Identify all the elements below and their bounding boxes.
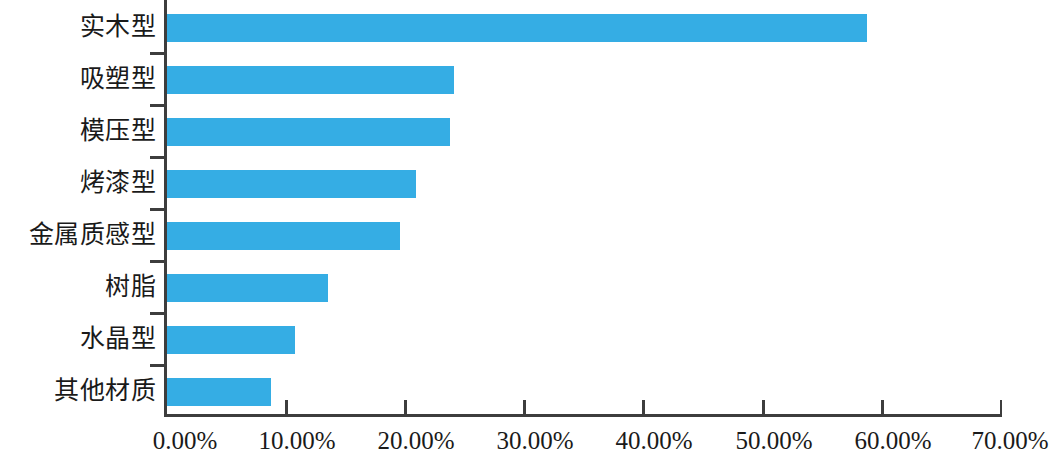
bar-2 — [166, 118, 450, 146]
x-axis-tick-1 — [285, 400, 288, 415]
y-axis-tick-4 — [150, 260, 165, 263]
y-axis-label-text-5: 树脂 — [0, 274, 156, 299]
bar-0 — [166, 14, 867, 42]
x-axis-tick-4 — [642, 400, 645, 415]
y-axis-label-1: 吸塑型 — [0, 52, 156, 104]
x-axis-tick-6 — [881, 400, 884, 415]
plot-area — [166, 0, 1000, 416]
bar-4 — [166, 222, 400, 250]
bar-1 — [166, 66, 454, 94]
y-axis-tick-6 — [150, 364, 165, 367]
x-axis-tick-label-7: 70.00% — [971, 428, 1048, 453]
y-axis-label-6: 水晶型 — [0, 312, 156, 364]
x-axis-tick-label-6: 60.00% — [854, 428, 931, 453]
y-axis-label-2: 模压型 — [0, 104, 156, 156]
x-axis-tick-label-0: 0.00% — [153, 428, 218, 453]
y-axis-label-text-6: 水晶型 — [0, 326, 156, 351]
x-axis-line — [164, 414, 1002, 417]
x-axis-tick-label-3: 30.00% — [496, 428, 573, 453]
bar-5 — [166, 274, 328, 302]
y-axis-label-text-0: 实木型 — [0, 14, 156, 39]
bar-7 — [166, 378, 271, 406]
x-axis-tick-7 — [1000, 400, 1003, 415]
x-axis-tick-label-1: 10.00% — [258, 428, 335, 453]
y-axis-label-4: 金属质感型 — [0, 208, 156, 260]
bar-3 — [166, 170, 416, 198]
y-axis-label-text-4: 金属质感型 — [0, 222, 156, 247]
x-axis-tick-label-2: 20.00% — [377, 428, 454, 453]
y-axis-label-text-3: 烤漆型 — [0, 170, 156, 195]
y-axis-label-7: 其他材质 — [0, 364, 156, 416]
y-axis-label-0: 实木型 — [0, 0, 156, 52]
y-axis-tick-3 — [150, 208, 165, 211]
y-axis-tick-0 — [150, 52, 165, 55]
y-axis-label-text-2: 模压型 — [0, 118, 156, 143]
y-axis-label-5: 树脂 — [0, 260, 156, 312]
x-axis-tick-label-5: 50.00% — [735, 428, 812, 453]
x-axis-tick-2 — [404, 400, 407, 415]
y-axis-tick-2 — [150, 156, 165, 159]
y-axis-category-labels: 实木型 吸塑型 模压型 烤漆型 金属质感型 树脂 水晶型 其他材质 — [0, 0, 156, 416]
x-axis-tick-5 — [762, 400, 765, 415]
y-axis-label-text-7: 其他材质 — [0, 378, 156, 403]
x-axis-tick-3 — [523, 400, 526, 415]
y-axis-label-3: 烤漆型 — [0, 156, 156, 208]
bar-6 — [166, 326, 295, 354]
y-axis-tick-1 — [150, 104, 165, 107]
x-axis-tick-label-4: 40.00% — [615, 428, 692, 453]
y-axis-tick-5 — [150, 312, 165, 315]
y-axis-label-text-1: 吸塑型 — [0, 66, 156, 91]
